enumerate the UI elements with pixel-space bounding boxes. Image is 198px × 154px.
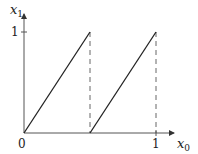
sawtooth-chart: 0 1 1 x0 x1 [0,0,198,154]
x-axis-label: x0 [177,136,190,153]
origin-label: 0 [18,137,26,151]
segment-1 [24,32,90,133]
y-axis-label: x1 [10,2,23,19]
x-tick-1-label: 1 [152,137,160,151]
y-tick-1-label: 1 [11,25,19,39]
segment-2 [90,32,156,133]
